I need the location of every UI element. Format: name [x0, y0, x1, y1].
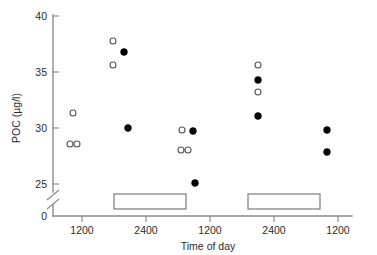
data-point-open: [74, 141, 80, 147]
night-period-bar-1: [114, 194, 186, 209]
data-point-open: [255, 89, 261, 95]
y-tick-label-40: 40: [35, 10, 47, 22]
y-axis: [47, 15, 59, 216]
y-axis-ticks: 40 35 30 25 0: [35, 10, 59, 222]
data-point-open: [179, 127, 185, 133]
x-tick-label-2: 2400: [134, 224, 158, 236]
night-period-bar-2: [248, 194, 320, 209]
data-point-open: [70, 110, 76, 116]
data-point-open: [67, 141, 73, 147]
data-point-open: [255, 62, 261, 68]
night-period-bars: [114, 194, 320, 209]
y-tick-label-35: 35: [35, 66, 47, 78]
x-tick-label-3: 1200: [198, 224, 222, 236]
data-point-filled: [324, 149, 331, 156]
x-tick-label-1: 1200: [70, 224, 94, 236]
poc-time-of-day-scatter-chart: 40 35 30 25 0 1200 2400 1200 2400 1200 T…: [0, 0, 377, 255]
data-point-filled: [121, 49, 128, 56]
x-axis-ticks: 1200 2400 1200 2400 1200: [70, 216, 350, 236]
data-point-open: [110, 62, 116, 68]
chart-container: 40 35 30 25 0 1200 2400 1200 2400 1200 T…: [0, 0, 377, 255]
data-point-open: [178, 147, 184, 153]
data-point-filled: [255, 113, 262, 120]
data-points-open-circles: [67, 38, 261, 153]
x-axis-title: Time of day: [181, 240, 236, 252]
x-tick-label-5: 1200: [326, 224, 350, 236]
data-point-filled: [324, 127, 331, 134]
y-tick-label-0: 0: [41, 210, 47, 222]
x-tick-label-4: 2400: [262, 224, 286, 236]
data-point-open: [185, 147, 191, 153]
y-tick-label-30: 30: [35, 122, 47, 134]
data-points-filled-circles: [121, 49, 331, 187]
data-point-filled: [192, 180, 199, 187]
y-tick-label-25: 25: [35, 178, 47, 190]
data-point-filled: [190, 128, 197, 135]
data-point-open: [110, 38, 116, 44]
data-point-filled: [125, 125, 132, 132]
y-axis-title: POC (µg/l): [10, 93, 22, 143]
data-point-filled: [255, 77, 262, 84]
